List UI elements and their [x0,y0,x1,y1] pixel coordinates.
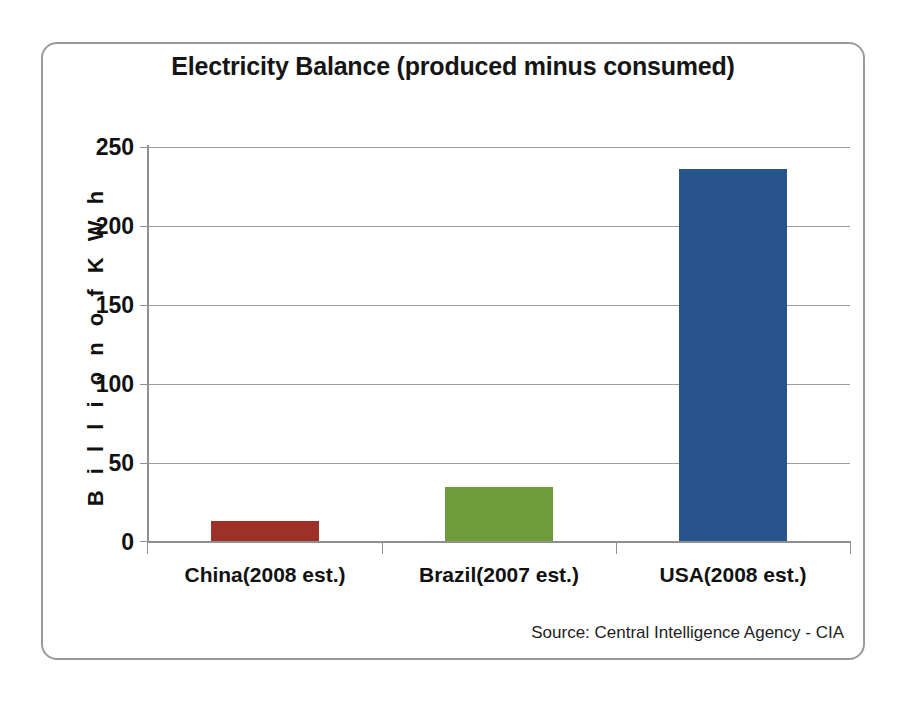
x-tick-mark-0 [147,541,148,554]
x-tick-mark-3 [850,541,851,554]
x-label-china: China(2008 est.) [148,563,382,587]
y-tick-label-0: 0 [64,531,134,554]
x-tick-mark-2 [616,541,617,554]
bar-usa[interactable] [679,169,787,541]
y-tick-label-50: 50 [64,452,134,475]
y-axis-tick-labels: 250 200 150 100 50 0 [56,147,134,541]
x-axis-line [147,541,851,543]
bar-brazil[interactable] [445,487,553,541]
y-tick-label-150: 150 [64,294,134,317]
x-axis-category-labels: China(2008 est.) Brazil(2007 est.) USA(2… [148,563,850,597]
y-tick-label-250: 250 [64,136,134,159]
chart-page: Electricity Balance (produced minus cons… [0,0,906,702]
x-tick-mark-1 [382,541,383,554]
source-note: Source: Central Intelligence Agency - CI… [531,623,844,643]
chart-title: Electricity Balance (produced minus cons… [41,52,865,81]
x-label-usa: USA(2008 est.) [616,563,850,587]
y-tick-label-100: 100 [64,373,134,396]
gridline-250 [148,147,850,148]
bar-china[interactable] [211,521,319,541]
y-tick-label-200: 200 [64,215,134,238]
x-label-brazil: Brazil(2007 est.) [382,563,616,587]
plot-area [148,147,850,541]
